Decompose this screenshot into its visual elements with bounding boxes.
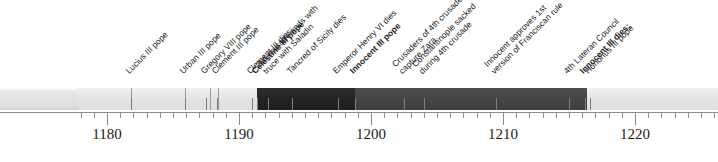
minor-tick-1206 <box>450 112 451 118</box>
major-tick-1180 <box>107 112 108 125</box>
leader-line-clement-iii-pope <box>217 98 218 110</box>
band-divider-clement-iii-start <box>218 88 219 110</box>
event-label-line: Lucius III pope <box>124 30 170 76</box>
minor-tick-1195 <box>305 112 306 118</box>
leader-line-honorius-iii-pope <box>590 98 591 110</box>
minor-tick-1204 <box>424 112 425 118</box>
minor-tick-1205 <box>437 112 438 118</box>
minor-tick-1202 <box>397 112 398 118</box>
leader-line-fourth-lateran-council <box>569 98 570 110</box>
leader-line-clement-iii-dies <box>252 98 253 110</box>
axis-label-1190: 1190 <box>224 126 253 143</box>
minor-tick-1185 <box>173 112 174 118</box>
minor-tick-1193 <box>279 112 280 118</box>
minor-tick-1226 <box>714 112 715 118</box>
axis-label-1180: 1180 <box>92 126 121 143</box>
minor-tick-1217 <box>595 112 596 118</box>
minor-tick-1188 <box>213 112 214 118</box>
minor-tick-1194 <box>292 112 293 118</box>
leader-line-third-crusade-truce <box>268 98 269 110</box>
minor-tick-1221 <box>648 112 649 118</box>
minor-tick-1215 <box>569 112 570 118</box>
leader-line-urban-iii-pope <box>185 98 186 110</box>
leader-line-innocent-iii-pope <box>355 98 356 110</box>
event-label-lucius-iii-pope: Lucius III pope <box>124 30 170 76</box>
minor-tick-1178 <box>81 112 82 118</box>
leader-line-lucius-iii-pope <box>131 98 132 110</box>
minor-tick-1218 <box>609 112 610 118</box>
leader-line-franciscan-rule-approved <box>496 98 497 110</box>
event-label-franciscan-rule-approved: Innocent approves 1stversion of Francisc… <box>483 0 565 76</box>
band-divider-gregory-viii-start <box>210 88 211 110</box>
minor-tick-1212 <box>529 112 530 118</box>
band-segment-celestine-iii <box>257 88 355 110</box>
minor-tick-1225 <box>701 112 702 118</box>
minor-tick-1216 <box>582 112 583 118</box>
leader-line-innocent-iii-dies <box>585 98 586 110</box>
timeline-band <box>0 88 718 110</box>
leader-line-constantinople-sacked <box>424 98 425 110</box>
band-segment-innocent-iii <box>355 88 587 110</box>
band-segment-pre-celestine <box>78 88 258 110</box>
minor-tick-1179 <box>94 112 95 118</box>
minor-tick-1191 <box>252 112 253 118</box>
papal-crusade-timeline: Lucius III popeUrban III popeGregory VII… <box>0 0 718 162</box>
band-segment-honorius-iii <box>587 88 718 110</box>
major-tick-1190 <box>239 112 240 125</box>
leader-line-tancred-of-sicily-dies <box>292 98 293 110</box>
minor-tick-1181 <box>120 112 121 118</box>
leader-line-gregory-viii-pope <box>206 98 207 110</box>
minor-tick-1219 <box>622 112 623 118</box>
minor-tick-1201 <box>384 112 385 118</box>
leader-line-emperor-henry-vi-dies <box>338 98 339 110</box>
minor-tick-1208 <box>477 112 478 118</box>
minor-tick-1186 <box>186 112 187 118</box>
leader-line-crusaders-capture-zara <box>404 98 405 110</box>
minor-tick-1196 <box>318 112 319 118</box>
axis-label-1200: 1200 <box>356 126 386 143</box>
minor-tick-1198 <box>345 112 346 118</box>
axis-label-1220: 1220 <box>620 126 650 143</box>
minor-tick-1211 <box>516 112 517 118</box>
minor-tick-1207 <box>463 112 464 118</box>
axis-label-1210: 1210 <box>488 126 518 143</box>
minor-tick-1224 <box>688 112 689 118</box>
major-tick-1200 <box>371 112 372 125</box>
event-label-line: version of Franciscan rule <box>490 0 566 76</box>
minor-tick-1199 <box>358 112 359 118</box>
minor-tick-1182 <box>133 112 134 118</box>
minor-tick-1184 <box>160 112 161 118</box>
minor-tick-1183 <box>147 112 148 118</box>
minor-tick-1223 <box>675 112 676 118</box>
minor-tick-1189 <box>226 112 227 118</box>
minor-tick-1187 <box>199 112 200 118</box>
minor-tick-1203 <box>411 112 412 118</box>
major-tick-1220 <box>635 112 636 125</box>
minor-tick-1192 <box>265 112 266 118</box>
minor-tick-1222 <box>661 112 662 118</box>
minor-tick-1209 <box>490 112 491 118</box>
leader-line-celestine-iii-pope <box>257 98 258 110</box>
minor-tick-1214 <box>556 112 557 118</box>
major-tick-1210 <box>503 112 504 125</box>
minor-tick-1197 <box>331 112 332 118</box>
event-label-line: 3rd crusade ends with <box>255 4 321 70</box>
minor-tick-1213 <box>543 112 544 118</box>
